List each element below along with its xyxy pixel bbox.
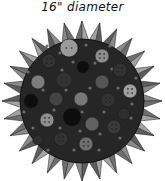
button-hole: [44, 121, 46, 123]
button-hole: [46, 62, 48, 64]
button-icon: [95, 75, 109, 89]
button-icon: [118, 108, 130, 120]
dot: [134, 76, 137, 79]
dot: [41, 88, 44, 91]
button-hole: [62, 140, 64, 142]
button-hole: [46, 58, 48, 60]
button-icon: [42, 54, 56, 68]
button-hole: [87, 145, 89, 147]
button-hole: [66, 82, 68, 84]
button-icon: [63, 108, 81, 126]
button-icon: [107, 120, 121, 134]
button-icon: [123, 84, 137, 98]
dot: [88, 86, 91, 89]
dot: [118, 136, 121, 139]
dot: [84, 43, 87, 46]
button-hole: [111, 128, 113, 130]
button-hole: [83, 141, 85, 143]
button-icon: [79, 137, 93, 151]
button-hole: [99, 53, 101, 55]
button-hole: [83, 145, 85, 147]
button-icon: [85, 117, 99, 131]
button-mat-illustration: [0, 0, 165, 181]
button-icon: [60, 39, 78, 57]
button-hole: [105, 97, 107, 99]
button-icon: [95, 49, 109, 63]
button-hole: [50, 62, 52, 64]
button-hole: [131, 88, 133, 90]
button-hole: [131, 92, 133, 94]
dot: [46, 148, 49, 151]
button-icon: [24, 94, 38, 108]
dot: [102, 110, 105, 113]
dot: [72, 148, 75, 151]
button-hole: [117, 67, 119, 69]
button-hole: [121, 67, 123, 69]
dot: [31, 126, 34, 129]
button-icon: [40, 113, 54, 127]
button-hole: [115, 124, 117, 126]
button-hole: [44, 117, 46, 119]
button-hole: [71, 47, 73, 49]
button-hole: [99, 57, 101, 59]
button-hole: [103, 53, 105, 55]
dot: [60, 68, 63, 71]
dot: [71, 60, 74, 63]
button-icon: [49, 92, 63, 106]
button-hole: [103, 57, 105, 59]
dot: [97, 148, 100, 151]
button-icon: [33, 135, 43, 145]
button-hole: [62, 136, 64, 138]
dot: [98, 132, 101, 135]
button-hole: [109, 97, 111, 99]
dot: [26, 70, 29, 73]
button-hole: [48, 117, 50, 119]
dot: [22, 110, 25, 113]
button-icon: [74, 92, 88, 106]
button-hole: [127, 92, 129, 94]
dot: [130, 102, 133, 105]
button-hole: [66, 77, 68, 79]
button-hole: [66, 47, 68, 49]
button-icon: [56, 72, 72, 88]
button-icon: [113, 63, 127, 77]
button-hole: [127, 88, 129, 90]
dot: [80, 110, 83, 113]
button-hole: [61, 77, 63, 79]
button-hole: [87, 141, 89, 143]
button-hole: [117, 71, 119, 73]
button-hole: [105, 101, 107, 103]
button-icon: [31, 75, 45, 89]
button-hole: [50, 58, 52, 60]
button-hole: [109, 101, 111, 103]
button-icon: [77, 61, 89, 73]
dot: [93, 61, 96, 64]
dot: [52, 108, 55, 111]
dot: [64, 88, 67, 91]
button-hole: [48, 121, 50, 123]
dot: [129, 116, 132, 119]
button-hole: [58, 140, 60, 142]
dot: [58, 126, 61, 129]
dot: [78, 129, 81, 132]
button-hole: [121, 71, 123, 73]
dot: [45, 44, 48, 47]
button-hole: [58, 136, 60, 138]
button-hole: [111, 124, 113, 126]
dot: [116, 86, 119, 89]
button-icon: [54, 132, 68, 146]
dot: [108, 44, 111, 47]
button-hole: [115, 128, 117, 130]
button-icon: [101, 93, 115, 107]
button-hole: [61, 82, 63, 84]
